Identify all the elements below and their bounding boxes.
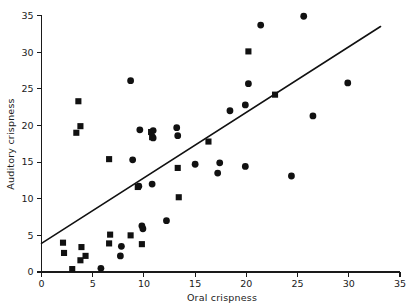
y-tick-label-30: 30 <box>21 47 33 58</box>
x-tick-label-10: 10 <box>138 278 150 289</box>
data-point-square <box>82 253 88 259</box>
x-axis-title: Oral crispness <box>187 292 257 303</box>
data-point-circle <box>214 170 221 177</box>
data-point-square <box>272 92 278 98</box>
data-point-square <box>205 139 211 145</box>
data-point-circle <box>216 159 223 166</box>
y-tick-label-15: 15 <box>21 156 33 167</box>
x-tick-label-20: 20 <box>240 278 252 289</box>
y-tick-label-35: 35 <box>21 10 33 21</box>
y-tick-label-10: 10 <box>21 193 33 204</box>
data-point-circle <box>344 80 351 87</box>
series-square-markers <box>60 48 278 272</box>
series-circle-markers <box>98 13 352 272</box>
data-point-circle <box>245 80 252 87</box>
data-point-circle <box>117 252 124 259</box>
y-tick-label-0: 0 <box>27 266 33 277</box>
y-tick-label-25: 25 <box>21 83 33 94</box>
data-point-square <box>139 241 145 247</box>
data-point-square <box>175 165 181 171</box>
x-tick-label-25: 25 <box>292 278 304 289</box>
data-point-circle <box>98 265 105 272</box>
data-point-square <box>106 240 112 246</box>
scatter-plot-figure: 0510152025303505101520253035 Oral crispn… <box>0 0 416 306</box>
axes <box>42 16 401 273</box>
data-point-circle <box>242 163 249 170</box>
data-point-circle <box>140 225 147 232</box>
x-tick-label-15: 15 <box>189 278 201 289</box>
data-point-circle <box>136 126 143 133</box>
data-point-square <box>69 266 75 272</box>
data-point-circle <box>227 107 234 114</box>
data-points <box>60 13 351 272</box>
data-point-square <box>107 232 113 238</box>
trend-line <box>42 26 381 243</box>
data-point-square <box>135 184 141 190</box>
data-point-square <box>60 240 66 246</box>
data-point-circle <box>118 243 125 250</box>
x-tick-label-30: 30 <box>343 278 355 289</box>
data-point-square <box>148 129 154 135</box>
data-point-square <box>245 48 251 54</box>
axis-spines <box>42 16 401 273</box>
y-tick-label-5: 5 <box>27 230 33 241</box>
y-axis-title: Auditory crispness <box>5 98 16 189</box>
data-point-circle <box>242 102 249 109</box>
data-point-circle <box>288 173 295 180</box>
data-point-square <box>78 244 84 250</box>
data-point-circle <box>310 113 317 120</box>
data-point-circle <box>300 13 307 20</box>
data-point-square <box>106 156 112 162</box>
data-point-square <box>77 123 83 129</box>
data-point-circle <box>174 132 181 139</box>
chart-canvas: 0510152025303505101520253035 Oral crispn… <box>0 0 416 306</box>
data-point-square <box>73 130 79 136</box>
x-tick-label-35: 35 <box>394 278 406 289</box>
data-point-circle <box>149 181 156 188</box>
data-point-circle <box>173 124 180 131</box>
data-point-square <box>128 232 134 238</box>
x-tick-label-5: 5 <box>90 278 96 289</box>
data-point-circle <box>163 217 170 224</box>
data-point-square <box>75 98 81 104</box>
regression-line <box>42 26 381 243</box>
data-point-square <box>176 194 182 200</box>
x-tick-label-0: 0 <box>38 278 44 289</box>
data-point-circle <box>127 77 134 84</box>
data-point-circle <box>192 161 199 168</box>
tick-marks <box>37 16 400 277</box>
y-tick-label-20: 20 <box>21 120 33 131</box>
data-point-circle <box>257 22 264 29</box>
data-point-circle <box>129 156 136 163</box>
data-point-square <box>61 250 67 256</box>
